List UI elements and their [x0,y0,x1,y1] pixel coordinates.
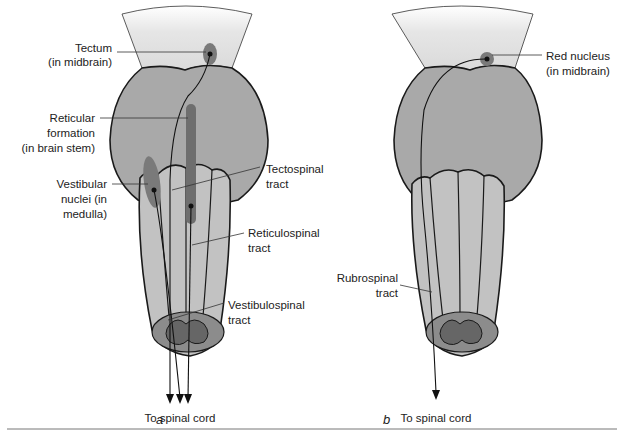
label-to-spinal-cord-b: To spinal cord [401,412,472,424]
panel-b: Red nucleus (in midbrain) Rubrospinal tr… [337,6,611,424]
label-vestibulospinal-2: tract [228,314,251,326]
label-tectum-sub: (in midbrain) [48,56,112,68]
label-reticulospinal: Reticulospinal [248,227,320,239]
label-reticular: Reticular [50,112,96,124]
label-rubrospinal-2: tract [376,287,399,299]
midbrain-a [122,6,252,70]
label-reticular-2: formation [47,127,95,139]
spinal-cross-section-a [152,312,224,352]
label-rubrospinal: Rubrospinal [337,272,398,284]
label-red-nucleus: Red nucleus [546,50,610,62]
label-vestibular-2: nuclei (in [61,193,107,205]
motor-pathways-diagram: Tectum (in midbrain) Reticular formation… [0,0,624,438]
spinal-cross-section-b [426,312,498,352]
label-vestibulospinal: Vestibulospinal [228,299,305,311]
label-tectospinal: Tectospinal [266,163,324,175]
label-reticulospinal-2: tract [248,242,271,254]
label-tectospinal-2: tract [266,178,289,190]
panel-label-b: b [383,412,390,427]
label-tectum: Tectum [75,42,112,54]
label-red-nucleus-2: (in midbrain) [546,65,610,77]
midbrain-b [392,6,533,70]
label-vestibular: Vestibular [56,178,107,190]
panel-a: Tectum (in midbrain) Reticular formation… [22,6,324,424]
panel-label-a: a [156,412,163,427]
label-vestibular-3: medulla) [63,208,107,220]
label-reticular-3: (in brain stem) [22,142,96,154]
